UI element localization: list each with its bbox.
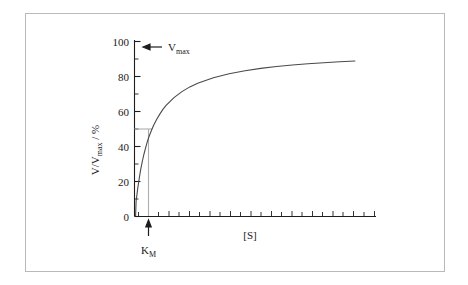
figure-frame	[25, 13, 445, 272]
